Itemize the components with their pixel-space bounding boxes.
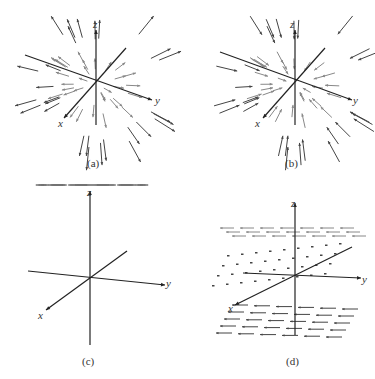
y-axis-label: y xyxy=(166,277,171,289)
panel-b: z y x (b) xyxy=(187,0,375,185)
panel-a: z y x (a) xyxy=(0,0,188,185)
y-axis-label: y xyxy=(353,94,358,106)
x-axis-label: x xyxy=(58,117,63,129)
x-axis-label: x xyxy=(255,117,260,129)
caption-d: (d) xyxy=(286,355,299,367)
z-axis-label: z xyxy=(93,18,97,30)
caption-c: (c) xyxy=(82,355,94,367)
x-axis-label: x xyxy=(228,302,233,314)
y-axis-label: y xyxy=(155,94,160,106)
y-axis-label: y xyxy=(362,273,367,285)
vector-field-rotational xyxy=(0,185,188,379)
vector-field-radial-inward xyxy=(187,0,375,185)
x-axis-label: x xyxy=(38,309,43,321)
panel-c: z y x (c) xyxy=(0,185,188,379)
caption-b: (b) xyxy=(285,157,298,169)
panel-d: z y x (d) xyxy=(187,185,375,379)
z-axis-label: z xyxy=(291,197,295,209)
caption-a: (a) xyxy=(87,157,99,169)
vector-field-horizontal-layers xyxy=(187,185,375,379)
z-axis-label: z xyxy=(290,18,294,30)
z-axis-label: z xyxy=(87,186,91,198)
